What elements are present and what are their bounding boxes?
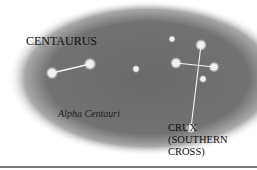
center-star — [134, 67, 138, 71]
small-star-1 — [170, 37, 174, 41]
crux-label: CRUX (SOUTHERN CROSS) — [168, 122, 257, 158]
small-star-2 — [201, 77, 205, 81]
centaurus-star-1 — [49, 70, 56, 77]
crux-top-star — [198, 42, 205, 49]
crux-right-star — [211, 64, 217, 70]
bottom-divider — [0, 166, 257, 168]
crux-left-star — [173, 60, 180, 67]
centaurus-star-2 — [87, 61, 94, 68]
centaurus-label: CENTAURUS — [26, 35, 97, 49]
alpha-centauri-label: Alpha Centauri — [58, 108, 120, 120]
